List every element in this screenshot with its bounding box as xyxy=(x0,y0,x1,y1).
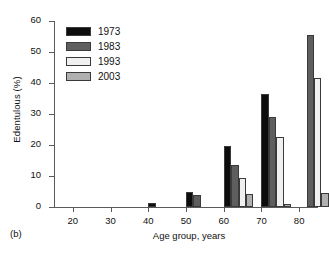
bar-1993-70 xyxy=(276,137,283,207)
bar-1983-50 xyxy=(193,195,200,207)
x-tick-label: 70 xyxy=(246,215,276,226)
legend-swatch-icon xyxy=(66,57,91,66)
legend-item-1983: 1983 xyxy=(66,39,120,54)
y-tick: 0 xyxy=(49,207,54,208)
y-tick-label: 30 xyxy=(19,107,41,118)
x-tick-label: 80 xyxy=(284,215,314,226)
legend-label: 2003 xyxy=(98,72,120,82)
x-tick-label: 20 xyxy=(58,215,88,226)
bar-1983-80 xyxy=(307,35,314,207)
y-tick: 10 xyxy=(49,176,54,177)
bar-1983-70 xyxy=(269,117,276,207)
legend-item-1973: 1973 xyxy=(66,24,120,39)
x-axis-label: Age group, years xyxy=(58,230,320,241)
y-tick-label: 0 xyxy=(19,200,41,211)
y-tick: 40 xyxy=(49,83,54,84)
bar-2003-60 xyxy=(246,194,253,207)
legend-label: 1993 xyxy=(98,57,120,67)
x-tick xyxy=(261,207,262,212)
legend: 1973198319932003 xyxy=(66,24,120,84)
y-tick-label: 50 xyxy=(19,45,41,56)
y-tick-label: 40 xyxy=(19,76,41,87)
legend-label: 1973 xyxy=(98,27,120,37)
bar-1993-80 xyxy=(314,78,321,207)
bar-1993-60 xyxy=(239,178,246,207)
x-tick-label: 30 xyxy=(96,215,126,226)
x-tick xyxy=(111,207,112,212)
x-tick xyxy=(224,207,225,212)
y-tick: 60 xyxy=(49,21,54,22)
bar-1973-60 xyxy=(224,146,231,207)
y-tick-label: 20 xyxy=(19,138,41,149)
bar-1973-50 xyxy=(186,192,193,208)
legend-item-2003: 2003 xyxy=(66,69,120,84)
y-tick-label: 60 xyxy=(19,14,41,25)
y-tick: 50 xyxy=(49,52,54,53)
panel-label: (b) xyxy=(10,228,22,239)
legend-label: 1983 xyxy=(98,42,120,52)
bar-2003-80 xyxy=(321,193,328,207)
x-tick xyxy=(186,207,187,212)
bar-1973-40 xyxy=(148,203,155,207)
legend-swatch-icon xyxy=(66,72,91,81)
x-tick-label: 40 xyxy=(133,215,163,226)
legend-swatch-icon xyxy=(66,27,91,36)
y-tick-label: 10 xyxy=(19,169,41,180)
x-tick-label: 50 xyxy=(171,215,201,226)
bar-1973-70 xyxy=(261,94,268,207)
x-tick xyxy=(148,207,149,212)
y-tick: 30 xyxy=(49,114,54,115)
y-axis-line xyxy=(54,21,55,208)
legend-item-1993: 1993 xyxy=(66,54,120,69)
legend-swatch-icon xyxy=(66,42,91,51)
x-tick xyxy=(299,207,300,212)
y-tick: 20 xyxy=(49,145,54,146)
x-tick-label: 60 xyxy=(209,215,239,226)
bar-2003-70 xyxy=(284,204,291,207)
x-tick xyxy=(73,207,74,212)
bar-1983-60 xyxy=(231,165,238,207)
